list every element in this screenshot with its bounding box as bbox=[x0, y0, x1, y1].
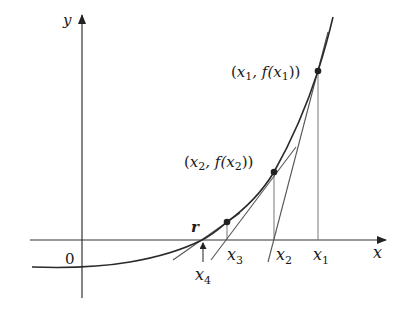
y-axis-label: y bbox=[62, 11, 72, 29]
point-x2 bbox=[271, 169, 278, 176]
function-curve bbox=[32, 17, 333, 267]
point-x1 bbox=[315, 68, 322, 75]
point-x1-coordinate-label: (x1, f(x1)) bbox=[231, 63, 300, 83]
x-axis-label: x bbox=[373, 243, 382, 262]
x3-label: x3 bbox=[227, 245, 243, 267]
point-x3 bbox=[224, 219, 231, 226]
x1-label: x1 bbox=[313, 245, 329, 267]
origin-label: 0 bbox=[65, 250, 75, 268]
x4-label: x4 bbox=[195, 265, 211, 287]
x2-label: x2 bbox=[276, 245, 292, 267]
root-label: r bbox=[191, 218, 200, 236]
newton-method-diagram: y x 0 r x1 x2 x3 x4 (x1, f(x1)) (x2, f(x… bbox=[0, 0, 410, 315]
point-x2-coordinate-label: (x2, f(x2)) bbox=[184, 153, 253, 173]
